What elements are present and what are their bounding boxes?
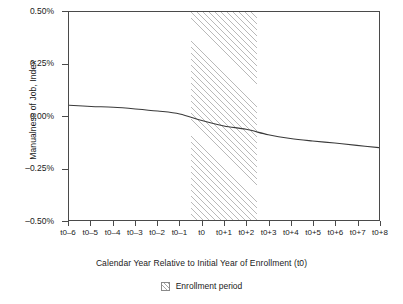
chart-figure: Manualness of Job, Index 0.50%0.25%0.00%… bbox=[0, 0, 403, 304]
x-tick-mark bbox=[179, 221, 180, 226]
legend-label-enrollment-period: Enrollment period bbox=[176, 281, 243, 291]
x-tick-mark bbox=[335, 221, 336, 226]
x-tick-mark bbox=[90, 221, 91, 226]
y-tick-label: –0.50% bbox=[8, 217, 54, 226]
x-tick-mark bbox=[224, 221, 225, 226]
x-tick-mark bbox=[291, 221, 292, 226]
y-tick-label: 0.00% bbox=[8, 112, 54, 121]
x-tick-mark bbox=[313, 221, 314, 226]
y-tick-label: –0.25% bbox=[8, 164, 54, 173]
plot-area bbox=[68, 11, 380, 221]
x-tick-mark bbox=[68, 221, 69, 226]
y-axis-title: Manualness of Job, Index bbox=[28, 20, 38, 200]
x-tick-mark bbox=[246, 221, 247, 226]
hatched-square-icon bbox=[161, 282, 170, 291]
x-tick-mark bbox=[113, 221, 114, 226]
x-tick-mark bbox=[380, 221, 381, 226]
data-line-manualness bbox=[69, 12, 379, 220]
x-axis-title: Calendar Year Relative to Initial Year o… bbox=[0, 258, 403, 268]
x-tick-label: t0+8 bbox=[363, 228, 397, 237]
x-tick-mark bbox=[157, 221, 158, 226]
x-tick-mark bbox=[358, 221, 359, 226]
y-tick-label: 0.50% bbox=[8, 7, 54, 16]
x-tick-mark bbox=[269, 221, 270, 226]
y-tick-label: 0.25% bbox=[8, 59, 54, 68]
x-tick-mark bbox=[202, 221, 203, 226]
x-tick-mark bbox=[135, 221, 136, 226]
chart-legend: Enrollment period bbox=[0, 281, 403, 291]
